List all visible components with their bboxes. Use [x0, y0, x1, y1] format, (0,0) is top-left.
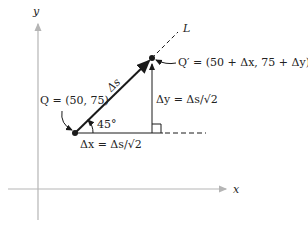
point-Q-prime-pointer [156, 60, 176, 64]
line-L-extension [152, 32, 178, 58]
right-angle-marker [152, 124, 161, 133]
point-Q-label: Q = (50, 75) [40, 94, 109, 107]
diagram-canvas: y x L Δs Δx = Δs/√2 Δy = Δs/√2 45° Q = (… [0, 0, 308, 227]
delta-y-label: Δy = Δs/√2 [156, 93, 218, 106]
point-Q-pointer [62, 111, 72, 130]
angle-label: 45° [97, 118, 117, 131]
point-Q-prime [149, 55, 155, 61]
point-Q [72, 130, 78, 136]
delta-s-label: Δs [104, 75, 124, 95]
x-axis-label: x [233, 183, 240, 196]
line-L-label: L [182, 22, 190, 35]
point-Q-prime-label: Q′ = (50 + Δx, 75 + Δy) [178, 56, 308, 69]
angle-arc [88, 120, 93, 133]
y-axis-label: y [32, 5, 40, 18]
delta-x-label: Δx = Δs/√2 [80, 138, 142, 151]
